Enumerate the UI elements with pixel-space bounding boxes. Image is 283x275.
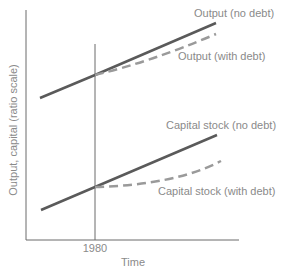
label-output-no-debt: Output (no debt) [194, 7, 274, 19]
y-axis-title: Output, capital (ratio scale) [7, 64, 19, 195]
x-tick-1980: 1980 [83, 242, 107, 254]
x-axis-title: Time [121, 256, 145, 268]
label-capital-with-debt: Capital stock (with debt) [158, 185, 275, 197]
label-output-with-debt: Output (with debt) [178, 50, 265, 62]
series-capital-with-debt [95, 161, 221, 187]
series-capital-no-debt [41, 135, 217, 210]
label-capital-no-debt: Capital stock (no debt) [166, 119, 276, 131]
chart: Output (no debt) Output (with debt) Capi… [0, 0, 283, 275]
